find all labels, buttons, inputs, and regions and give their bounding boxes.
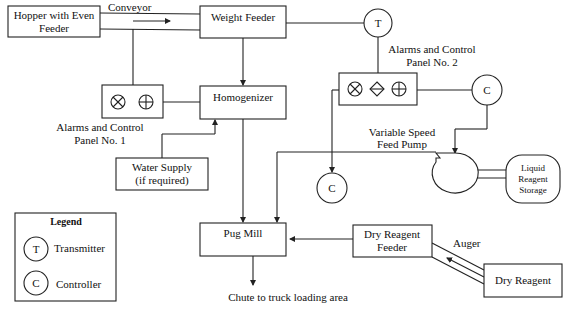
dry-feeder-label-1: Dry Reagent bbox=[364, 228, 420, 240]
hopper-box: Hopper with Even Feeder bbox=[8, 6, 100, 37]
water-supply-label-2: (if required) bbox=[135, 174, 189, 187]
pump-label-1: Variable Speed bbox=[369, 126, 436, 138]
dry-feeder-label-2: Feeder bbox=[377, 241, 407, 253]
pug-mill-box: Pug Mill bbox=[200, 223, 286, 256]
variable-speed-pump bbox=[432, 153, 478, 193]
control-panel-1 bbox=[102, 85, 163, 118]
legend-controller-symbol: C bbox=[32, 277, 39, 289]
transmitter-circle: T bbox=[364, 9, 392, 37]
control-panel-2 bbox=[339, 73, 417, 105]
controller-right-symbol: C bbox=[483, 84, 490, 96]
legend-controller-label: Controller bbox=[56, 278, 102, 290]
hopper-label-2: Feeder bbox=[39, 22, 69, 34]
water-supply-box: Water Supply (if required) bbox=[116, 158, 208, 190]
chute-label: Chute to truck loading area bbox=[228, 291, 348, 303]
panel2-label-1: Alarms and Control bbox=[388, 43, 475, 55]
plus-circle-icon bbox=[139, 95, 153, 109]
controller-low-symbol: C bbox=[328, 182, 335, 194]
process-flow-diagram: Hopper with Even Feeder Conveyor Weight … bbox=[0, 0, 568, 309]
hopper-label-1: Hopper with Even bbox=[14, 9, 95, 21]
panel2-label-2: Panel No. 2 bbox=[406, 56, 458, 68]
dry-reagent-feeder-box: Dry Reagent Feeder bbox=[353, 225, 432, 257]
plus-circle-icon bbox=[392, 82, 406, 96]
panel1-label-1: Alarms and Control bbox=[56, 121, 143, 133]
homogenizer-label: Homogenizer bbox=[213, 91, 273, 103]
legend: Legend T Transmitter C Controller bbox=[15, 213, 116, 301]
legend-title: Legend bbox=[50, 216, 82, 227]
weight-feeder-label: Weight Feeder bbox=[211, 11, 276, 23]
weight-feeder-box: Weight Feeder bbox=[200, 6, 286, 38]
conveyor-label: Conveyor bbox=[108, 1, 152, 13]
controller-circle-low: C bbox=[317, 173, 347, 203]
controller-circle-right: C bbox=[472, 75, 502, 105]
dry-reagent-box: Dry Reagent bbox=[484, 264, 562, 297]
transmitter-symbol: T bbox=[375, 17, 382, 29]
legend-transmitter-symbol: T bbox=[33, 243, 40, 255]
homogenizer-box: Homogenizer bbox=[200, 86, 286, 119]
panel1-label-2: Panel No. 1 bbox=[74, 134, 126, 146]
pug-mill-label: Pug Mill bbox=[224, 227, 263, 239]
legend-transmitter-label: Transmitter bbox=[54, 242, 105, 254]
auger-line-bottom bbox=[432, 257, 484, 284]
auger-label: Auger bbox=[453, 237, 481, 249]
conveyor-line-top bbox=[100, 13, 200, 14]
storage-label-3: Storage bbox=[519, 185, 547, 195]
storage-label-2: Reagent bbox=[518, 174, 548, 184]
dry-reagent-label: Dry Reagent bbox=[495, 274, 551, 286]
pump-label-2: Feed Pump bbox=[377, 138, 427, 150]
water-supply-label-1: Water Supply bbox=[132, 161, 192, 173]
liquid-reagent-storage: Liquid Reagent Storage bbox=[506, 155, 560, 203]
storage-label-1: Liquid bbox=[521, 163, 545, 173]
conveyor-line-bottom bbox=[100, 29, 200, 30]
